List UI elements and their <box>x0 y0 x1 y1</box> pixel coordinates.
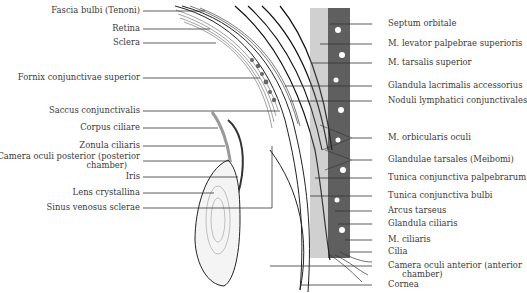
label-zonula-ciliaris: Zonula ciliaris <box>79 141 140 150</box>
label-lens-crystallina: Lens crystallina <box>73 188 140 197</box>
label-m-tarsalis-superior: M. tarsalis superior <box>388 58 472 67</box>
label-tunica-conjunctiva-bulbi: Tunica conjunctiva bulbi <box>388 191 493 200</box>
label-glandula-lacrimalis: Glandula lacrimalis accessorius <box>388 81 522 90</box>
label-fascia-bulbi: Fascia bulbi (Tenoni) <box>51 6 140 15</box>
label-glandula-ciliaris: Glandula ciliaris <box>388 219 458 228</box>
label-m-ciliaris: M. ciliaris <box>388 235 431 244</box>
label-camera-oculi-anterior-cont: chamber) <box>402 270 443 279</box>
label-retina: Retina <box>112 24 140 33</box>
label-cilia: Cilia <box>388 247 407 256</box>
label-saccus-conjunctivalis: Saccus conjunctivalis <box>49 106 140 115</box>
label-iris: Iris <box>126 172 140 181</box>
label-m-orbicularis-oculi: M. orbicularis oculi <box>388 133 471 142</box>
label-noduli-lymphatici: Noduli lymphatici conjunctivales <box>388 96 527 105</box>
label-corpus-ciliare: Corpus ciliare <box>80 123 140 132</box>
label-tunica-conjunctiva-palpebrarum: Tunica conjunctiva palpebrarum <box>388 173 526 182</box>
label-arcus-tarseus: Arcus tarseus <box>388 206 446 215</box>
label-glandulae-tarsales: Glandulae tarsales (Meibomi) <box>388 155 514 164</box>
label-sinus-venosus-sclerae: Sinus venosus sclerae <box>46 203 140 212</box>
label-cornea: Cornea <box>388 280 419 289</box>
label-camera-oculi-posterior-cont: chamber) <box>86 161 127 170</box>
label-septum-orbitale: Septum orbitale <box>388 19 457 28</box>
label-m-levator-palpebrae: M. levator palpebrae superioris <box>388 39 522 48</box>
label-sclera: Sclera <box>113 38 140 47</box>
label-fornix-conjunctivae-superior: Fornix conjunctivae superior <box>18 73 140 82</box>
